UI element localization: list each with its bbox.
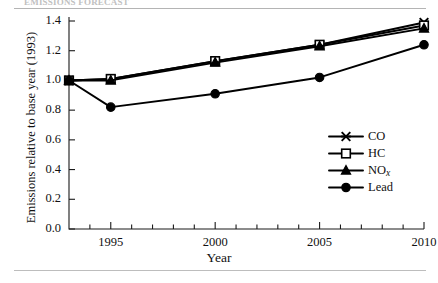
x-tick-label: 2010 [394,235,438,250]
x-tick-label: 2000 [185,235,245,250]
series-lead [65,41,428,112]
legend-item-nox: NOx [327,162,419,179]
y-axis-title: Emissions relative to base year (1993) [24,13,39,243]
triangle-marker-icon [327,162,365,179]
figure-container: EMISSIONS FORECAST 0.00.20.40.60.81.01.2… [0,0,438,283]
series-group [64,18,429,111]
x-axis-title: Year [0,250,438,266]
bottom-horizontal-rule [14,270,426,271]
legend-item-lead: Lead [327,179,419,196]
x-tick-label: 2005 [290,235,350,250]
axes-group [69,17,424,229]
x-tick-label: 1995 [81,235,141,250]
series-hc [65,21,429,85]
square-marker-icon [327,145,365,162]
legend-label: CO [365,129,385,144]
plot-area: 0.00.20.40.60.81.01.21.4 199520002005201… [0,0,438,283]
circle-marker-icon [327,179,365,196]
legend-label: NOx [365,163,390,178]
legend-item-hc: HC [327,145,419,162]
series-co [64,18,429,85]
legend-label: HC [365,146,385,161]
chart-legend: COHCNOxLead [327,128,419,196]
legend-item-co: CO [327,128,419,145]
cross-marker-icon [327,128,365,145]
legend-label: Lead [365,180,393,195]
